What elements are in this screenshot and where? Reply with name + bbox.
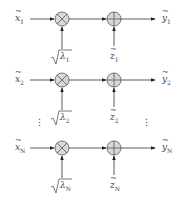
channel-row-1 [30,12,155,64]
multiplier-node-icon [55,12,69,26]
input-label-1: x1 [15,14,24,25]
block-diagram: x1 λ1 z1 y1 x2 λ2 z2 y2 ⋮ ⋮ xN λN zN yN [0,0,185,204]
noise-label-N: zN [110,181,120,192]
input-label-N: xN [15,143,25,154]
input-label-2: x2 [15,75,24,86]
adder-node-icon [107,12,121,26]
output-label-1: y1 [162,14,171,25]
gain-label-N: λN [60,181,71,192]
ellipsis-left: ⋮ [35,121,39,124]
multiplier-node-icon [55,73,69,87]
gain-label-1: λ1 [60,52,70,63]
output-label-N: yN [162,143,172,154]
adder-node-icon [107,141,121,155]
diagram-graphics [0,0,185,204]
output-label-2: y2 [162,75,171,86]
gain-label-2: λ2 [60,113,70,124]
noise-label-1: z1 [110,52,119,63]
noise-label-2: z2 [110,113,119,124]
adder-node-icon [107,73,121,87]
multiplier-node-icon [55,141,69,155]
channel-row-N [30,141,155,193]
channel-row-2 [30,73,155,125]
ellipsis-right: ⋮ [142,121,146,124]
